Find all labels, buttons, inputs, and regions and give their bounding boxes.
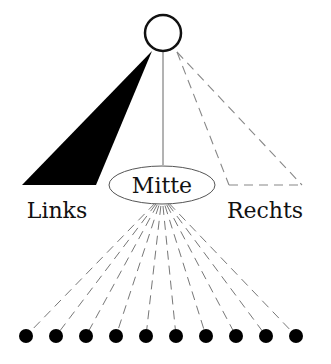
leaf-node <box>289 329 303 343</box>
leaf-edge <box>26 203 155 336</box>
leaf-node <box>259 329 273 343</box>
right-subtree-dashed-triangle <box>177 52 302 185</box>
root-node <box>145 15 181 51</box>
left-label: Links <box>27 198 87 223</box>
leaf-edge <box>163 206 176 336</box>
leaf-nodes <box>19 329 303 343</box>
leaf-edge <box>168 204 266 336</box>
leaf-node <box>139 329 153 343</box>
leaf-edge <box>167 205 236 336</box>
leaf-edge <box>116 206 159 336</box>
leaf-node <box>229 329 243 343</box>
leaf-edges <box>26 203 296 336</box>
tree-diagram: Mitte Links Rechts <box>0 0 331 364</box>
left-subtree-triangle <box>22 51 152 185</box>
leaf-node <box>169 329 183 343</box>
leaf-node <box>19 329 33 343</box>
leaf-edge <box>165 206 206 336</box>
leaf-edge <box>86 205 157 336</box>
leaf-node <box>79 329 93 343</box>
leaf-edge <box>146 206 161 336</box>
leaf-node <box>109 329 123 343</box>
right-label: Rechts <box>227 198 303 223</box>
leaf-node <box>199 329 213 343</box>
leaf-edge <box>169 203 296 336</box>
middle-label: Mitte <box>132 173 192 198</box>
leaf-node <box>49 329 63 343</box>
leaf-edge <box>56 204 156 336</box>
